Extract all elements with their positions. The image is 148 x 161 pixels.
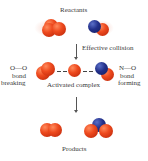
- reactants-label: Reactants: [60, 7, 87, 14]
- bond-breaking-line2: breaking: [1, 80, 26, 87]
- activated-complex-label: Activated complex: [47, 82, 100, 89]
- no-bond-label: N—O: [119, 65, 136, 72]
- oo-bond-label: O—O: [10, 65, 27, 72]
- bond-forming-line2: forming: [118, 80, 141, 87]
- products-label: Products: [62, 146, 87, 153]
- effective-collision-label: Effective collision: [82, 45, 133, 52]
